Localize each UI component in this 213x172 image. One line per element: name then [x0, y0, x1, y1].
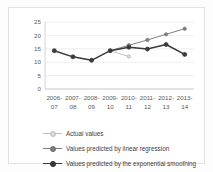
legend-label-linear-regression: Values predicted by linear regression — [66, 144, 169, 153]
y-axis-tick-label: 20 — [34, 32, 41, 39]
x-axis-tick-label: 13 — [163, 103, 170, 110]
legend-item-linear-regression: Values predicted by linear regression — [43, 141, 208, 156]
legend-item-actual-values: Actual values — [43, 126, 208, 141]
legend-marker-linear-regression — [43, 144, 62, 153]
line-chart-svg: 05101520252006-072007-082008-092009-1020… — [23, 18, 198, 123]
data-point — [52, 49, 56, 53]
y-axis-tick-label: 25 — [34, 18, 41, 25]
legend-item-exponential-smoothing: Values predicted by the exponential smoo… — [43, 156, 208, 171]
chart-figure: 05101520252006-072007-082008-092009-1020… — [0, 0, 213, 172]
legend-label-exponential-smoothing: Values predicted by the exponential smoo… — [66, 159, 196, 168]
data-point — [183, 27, 186, 30]
data-point — [90, 58, 94, 62]
data-point — [127, 45, 131, 49]
x-axis-tick-label: 2011- — [140, 94, 155, 101]
data-point — [164, 33, 167, 36]
data-point — [71, 55, 75, 59]
data-point — [183, 52, 187, 56]
y-axis-tick-label: 5 — [38, 72, 42, 79]
data-point — [127, 55, 130, 58]
legend-label-actual-values: Actual values — [66, 129, 103, 138]
x-axis-tick-label: 2006- — [46, 94, 62, 101]
y-axis-tick-label: 10 — [34, 58, 41, 65]
figure-frame: 05101520252006-072007-082008-092009-1020… — [8, 7, 205, 164]
x-axis-tick-label: 2007- — [65, 94, 81, 101]
x-axis-tick-label: 10 — [107, 103, 114, 110]
x-axis-tick-label: 11 — [126, 103, 133, 110]
y-axis-tick-label: 15 — [34, 45, 41, 52]
legend-marker-actual-values — [43, 129, 62, 138]
plot-area: 05101520252006-072007-082008-092009-1020… — [23, 18, 198, 123]
x-axis-tick-label: 12 — [144, 103, 151, 110]
x-axis-tick-label: 2013- — [177, 94, 193, 101]
series-line — [110, 51, 129, 57]
x-axis-tick-label: 2012- — [158, 94, 174, 101]
data-point — [164, 43, 168, 47]
x-axis-tick-label: 08 — [69, 103, 76, 110]
chart-legend: Actual values Values predicted by linear… — [43, 126, 208, 171]
data-point — [146, 38, 149, 41]
x-axis-tick-label: 2008- — [84, 94, 100, 101]
y-axis-tick-label: 0 — [38, 85, 42, 92]
x-axis-tick-label: 2010- — [121, 94, 137, 101]
data-point — [108, 49, 112, 53]
legend-marker-exponential-smoothing — [43, 159, 62, 168]
x-axis-tick-label: 2009- — [102, 94, 118, 101]
x-axis-tick-label: 09 — [88, 103, 95, 110]
x-axis-tick-label: 07 — [51, 103, 58, 110]
x-axis-tick-label: 14 — [181, 103, 188, 110]
data-point — [145, 47, 149, 51]
